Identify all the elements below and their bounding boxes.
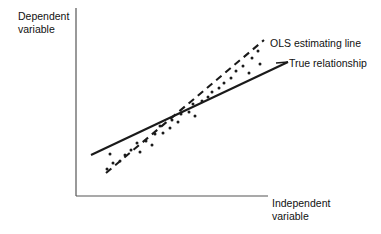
scatter-point <box>188 111 191 114</box>
scatter-point <box>251 57 254 60</box>
ols-estimating-line-label: OLS estimating line <box>270 37 361 50</box>
true-relationship-line <box>91 62 288 155</box>
scatter-point <box>162 132 165 135</box>
scatter-point <box>112 162 115 165</box>
scatter-points-group <box>106 50 262 171</box>
regression-lines-group <box>91 40 288 173</box>
x-axis-label: Independent variable <box>272 197 330 222</box>
scatter-point <box>223 82 226 85</box>
ols-estimating-line <box>106 40 264 173</box>
annotation-leader-lines <box>276 62 288 63</box>
regression-figure: Dependent variable Independent variable … <box>0 0 381 234</box>
scatter-point <box>248 72 251 75</box>
scatter-point <box>109 153 112 156</box>
scatter-point <box>169 127 172 130</box>
scatter-point <box>130 149 133 152</box>
scatter-point <box>230 77 233 80</box>
scatter-point <box>259 63 262 66</box>
scatter-point <box>151 144 154 147</box>
scatter-point <box>257 50 260 53</box>
scatter-point <box>218 87 221 90</box>
scatter-point <box>139 151 142 154</box>
true-relationship-leader-line <box>276 62 288 63</box>
scatter-point <box>211 91 214 94</box>
x-axis-label-line2: variable <box>272 210 330 223</box>
y-axis-label-line2: variable <box>18 23 69 36</box>
y-axis-label: Dependent variable <box>18 10 69 35</box>
true-relationship-label: True relationship <box>289 57 367 70</box>
scatter-point <box>242 65 245 68</box>
scatter-point <box>194 115 197 118</box>
axes-group <box>76 8 268 196</box>
scatter-point <box>136 142 139 145</box>
y-axis-label-line1: Dependent <box>18 10 69 23</box>
scatter-point <box>192 103 195 106</box>
scatter-point <box>207 96 210 99</box>
scatter-point <box>235 70 238 73</box>
scatter-point <box>177 121 180 124</box>
x-axis-label-line1: Independent <box>272 197 330 210</box>
